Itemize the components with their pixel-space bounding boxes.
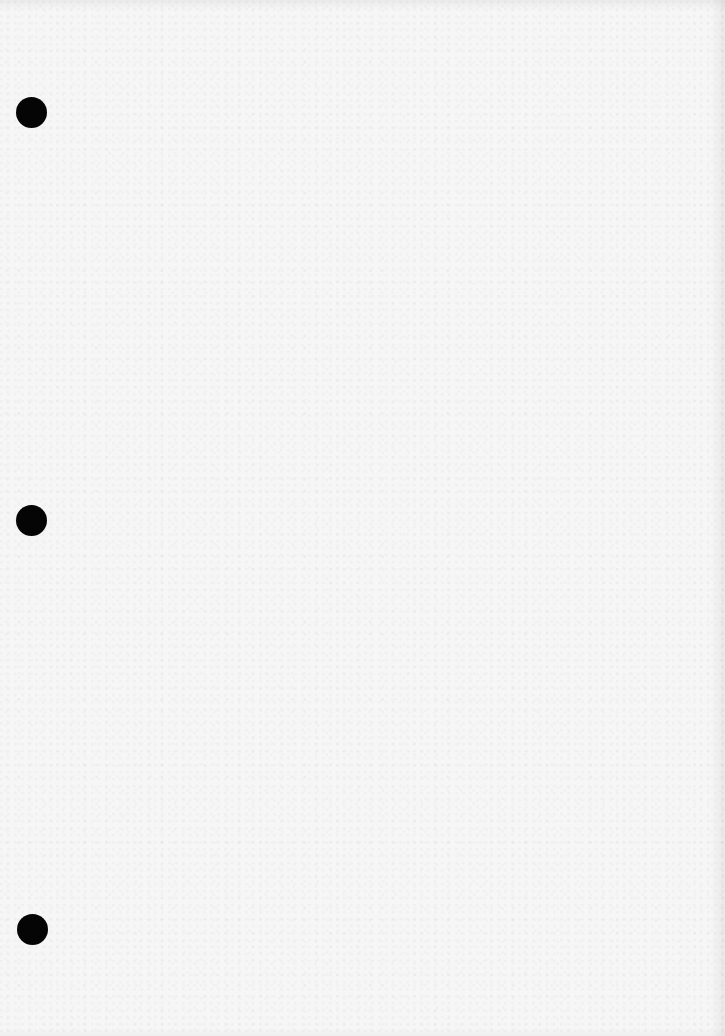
punch-hole-middle bbox=[16, 505, 47, 536]
blank-paper-sheet bbox=[0, 0, 725, 1036]
punch-hole-bottom bbox=[17, 914, 48, 945]
punch-hole-top bbox=[16, 97, 47, 128]
